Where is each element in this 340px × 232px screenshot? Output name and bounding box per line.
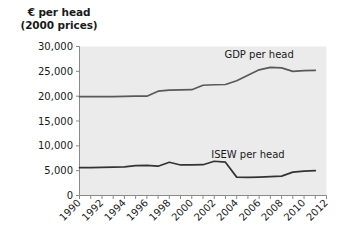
y-tick-label: 30,000 <box>38 41 73 52</box>
series-label: GDP per head <box>224 49 293 60</box>
x-tick-label: 2006 <box>237 197 263 223</box>
x-tick-label: 2010 <box>282 197 308 223</box>
x-tick-label: 2008 <box>259 197 285 223</box>
y-tick-label: 20,000 <box>38 91 73 102</box>
series-label: ISEW per head <box>211 149 284 160</box>
x-tick-marks <box>80 196 327 200</box>
y-tick-label: 5,000 <box>44 165 73 176</box>
x-tick-label: 1996 <box>125 197 151 223</box>
chart-container: € per head (2000 prices) 05,00010,00015,… <box>0 0 340 232</box>
y-tick-label: 25,000 <box>38 66 73 77</box>
x-tick-label: 1992 <box>80 197 106 223</box>
x-tick-labels: 1990199219941996199820002002200420062008… <box>57 197 330 223</box>
chart-plot: 05,00010,00015,00020,00025,00030,000 199… <box>0 0 340 232</box>
x-tick-label: 1990 <box>57 197 83 223</box>
y-tick-label: 10,000 <box>38 140 73 151</box>
x-tick-label: 1998 <box>147 197 173 223</box>
x-tick-label: 2000 <box>169 197 195 223</box>
y-tick-labels: 05,00010,00015,00020,00025,00030,000 <box>38 41 73 201</box>
x-tick-label: 1994 <box>102 197 128 223</box>
x-tick-label: 2002 <box>192 197 218 223</box>
x-tick-label: 2004 <box>214 197 240 223</box>
y-tick-marks <box>76 47 80 196</box>
y-tick-label: 15,000 <box>38 116 73 127</box>
x-tick-label: 2012 <box>304 197 330 223</box>
